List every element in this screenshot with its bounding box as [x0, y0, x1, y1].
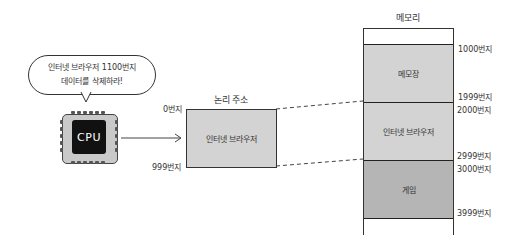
memory-title: 메모리 — [383, 11, 433, 24]
dashed-mapping-bottom — [276, 159, 363, 166]
logical-block-label: 인터넷 브라우저 — [206, 133, 258, 144]
cpu-pins-bottom — [71, 161, 105, 164]
speech-bubble-tail — [80, 92, 92, 104]
speech-bubble: 인터넷 브라우저 1100번지 데이터를 삭제하라! — [28, 55, 156, 95]
memory-column: 메모장 인터넷 브라우저 게임 — [363, 28, 454, 235]
speech-line-2: 데이터를 삭제하라! — [61, 75, 123, 89]
memory-segment-empty-top — [364, 29, 453, 44]
segment-label: 게임 — [402, 184, 416, 195]
cpu-pins-left — [60, 120, 63, 152]
cpu-pins-top — [71, 111, 105, 114]
address-label-1999: 1999번지 — [458, 91, 492, 102]
speech-line-1: 인터넷 브라우저 1100번지 — [48, 61, 136, 75]
cpu-core: CPU — [72, 120, 106, 154]
dashed-mapping-top — [276, 101, 363, 109]
memory-segment-empty-bottom — [364, 218, 453, 235]
memory-segment-notepad: 메모장 — [364, 44, 453, 102]
address-label-3999: 3999번지 — [457, 207, 491, 218]
address-label-3000: 3000번지 — [457, 163, 491, 174]
logical-address-title: 논리 주소 — [205, 93, 257, 106]
cpu-to-logical-arrow — [121, 134, 181, 142]
segment-label: 인터넷 브라우저 — [383, 126, 435, 137]
memory-segment-game: 게임 — [364, 160, 453, 218]
address-label-2000: 2000번지 — [457, 104, 491, 115]
logical-start-label: 0번지 — [163, 103, 182, 114]
address-label-1000: 1000번지 — [458, 43, 492, 54]
cpu-label: CPU — [77, 131, 101, 144]
memory-segment-browser: 인터넷 브라우저 — [364, 102, 453, 160]
segment-label: 메모장 — [398, 68, 419, 79]
address-label-2999: 2999번지 — [457, 150, 491, 161]
logical-address-block: 인터넷 브라우저 — [186, 109, 277, 168]
logical-end-label: 999번지 — [152, 161, 181, 172]
cpu-pins-right — [115, 120, 118, 152]
